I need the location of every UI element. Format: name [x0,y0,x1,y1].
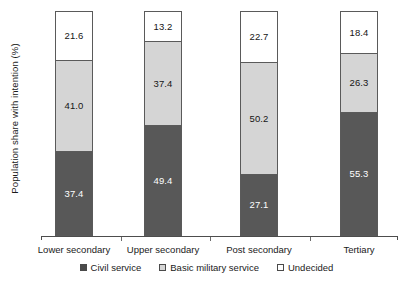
bar-segment-value: 21.6 [65,31,84,41]
bar-segment-value: 27.1 [250,200,269,210]
bar-lower-secondary[interactable]: 21.6 41.0 37.4 [55,11,93,236]
legend-item-basic-military-service[interactable]: Basic military service [159,262,259,273]
bar-segment-value: 22.7 [250,32,269,42]
bar-segment-value: 37.4 [65,189,84,199]
bar-segment-value: 13.2 [154,22,173,32]
x-axis-tick-1 [121,237,122,241]
x-axis-tick-2 [210,237,211,241]
bar-segment-undecided[interactable]: 21.6 [55,11,93,61]
bar-segment-civil-service[interactable]: 27.1 [240,174,278,236]
bar-segment-value: 50.2 [250,114,269,124]
legend-item-label: Undecided [288,262,333,273]
bar-segment-value: 55.3 [350,169,369,179]
stacked-bar-chart: Population share with intention (%) 21.6… [0,0,413,293]
bar-segment-civil-service[interactable]: 37.4 [55,151,93,236]
legend-item-civil-service[interactable]: Civil service [80,262,142,273]
y-axis-title-label: Population share with intention (%) [9,43,20,193]
x-axis-label-lower-secondary: Lower secondary [30,244,118,255]
bar-segment-civil-service[interactable]: 55.3 [340,112,378,236]
legend-item-label: Basic military service [170,262,259,273]
x-axis-start-tick [41,236,42,240]
y-axis-title: Population share with intention (%) [0,0,28,236]
bar-segment-civil-service[interactable]: 49.4 [144,125,182,236]
bar-tertiary[interactable]: 18.4 26.3 55.3 [340,11,378,236]
legend: Civil service Basic military service Und… [0,262,413,273]
bar-upper-secondary[interactable]: 13.2 37.4 49.4 [144,11,182,236]
bar-segment-value: 49.4 [154,176,173,186]
legend-swatch-icon [80,264,87,271]
bar-segment-basic-military-service[interactable]: 50.2 [240,62,278,175]
bar-segment-undecided[interactable]: 22.7 [240,11,278,63]
bar-segment-value: 26.3 [350,78,369,88]
bar-segment-basic-military-service[interactable]: 41.0 [55,60,93,153]
bar-segment-basic-military-service[interactable]: 26.3 [340,53,378,113]
bar-segment-value: 18.4 [350,28,369,38]
x-axis-label-tertiary: Tertiary [315,244,403,255]
x-axis-label-post-secondary: Post secondary [215,244,303,255]
bar-segment-undecided[interactable]: 13.2 [144,11,182,42]
bar-segment-value: 37.4 [154,79,173,89]
legend-swatch-icon [277,264,284,271]
x-axis-line [41,236,398,237]
legend-item-undecided[interactable]: Undecided [277,262,333,273]
legend-swatch-icon [159,264,166,271]
bar-segment-value: 41.0 [65,101,84,111]
x-axis-tick-3 [310,237,311,241]
bar-segment-undecided[interactable]: 18.4 [340,11,378,54]
x-axis-end-tick [397,236,398,240]
x-axis-label-upper-secondary: Upper secondary [119,244,207,255]
legend-item-label: Civil service [91,262,142,273]
bar-segment-basic-military-service[interactable]: 37.4 [144,41,182,126]
bar-post-secondary[interactable]: 22.7 50.2 27.1 [240,11,278,236]
